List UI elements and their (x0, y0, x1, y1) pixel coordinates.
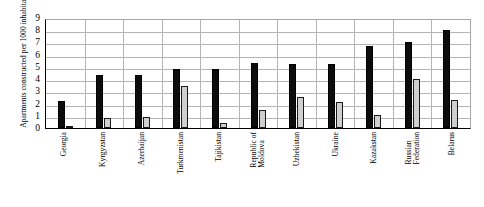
x-tick-label-line: Uzbekistan (293, 132, 301, 166)
bar (173, 69, 180, 128)
x-tick-label: Republic ofMoldova (250, 132, 266, 168)
x-axis-tick-labels: GeorgiaKyrgyzstanAzerbaijanTurkmenistanT… (45, 130, 471, 207)
bar-group (200, 20, 239, 128)
x-tick-label: Georgia (60, 132, 68, 156)
x-label-cell: Ukraine (316, 130, 355, 207)
bar-group (162, 20, 201, 128)
bar-group (46, 20, 85, 128)
y-tick-label: 6 (24, 51, 40, 61)
x-tick-label-line: Kazakstan (370, 132, 378, 164)
bar (251, 63, 258, 128)
x-tick-label-line: Moldova (258, 132, 266, 168)
y-tick-label: 8 (24, 26, 40, 36)
x-tick-label: Tajikistan (215, 132, 223, 162)
x-tick-label: Ukraine (331, 132, 339, 156)
x-tick-label-line: Azerbaijan (138, 132, 146, 165)
x-tick-label: Kazakstan (370, 132, 378, 164)
y-tick-label: 0 (24, 124, 40, 134)
bar (212, 69, 219, 128)
x-tick-label: Azerbaijan (138, 132, 146, 165)
bar (66, 126, 73, 128)
x-tick-label: Turkmenistan (176, 132, 184, 174)
x-label-cell: Georgia (45, 130, 84, 207)
bar (143, 117, 150, 128)
bar-groups (46, 20, 470, 128)
x-label-cell: Turkmenistan (161, 130, 200, 207)
x-tick-label: RussianFederation (405, 132, 421, 164)
bar (297, 97, 304, 128)
x-label-cell: Republic ofMoldova (239, 130, 278, 207)
bar (443, 30, 450, 128)
plot-area (45, 19, 471, 129)
bar-group (85, 20, 124, 128)
x-tick-label-line: Ukraine (331, 132, 339, 156)
x-label-cell: Kazakstan (355, 130, 394, 207)
x-tick-label-line: Belarus (448, 132, 456, 155)
y-tick-label: 7 (24, 39, 40, 49)
x-label-cell: RussianFederation (394, 130, 433, 207)
x-label-cell: Belarus (432, 130, 471, 207)
x-label-cell: Tajikistan (200, 130, 239, 207)
bar-group (239, 20, 278, 128)
bar-group (393, 20, 432, 128)
y-tick-label: 4 (24, 75, 40, 85)
bar (96, 75, 103, 128)
bar-group (354, 20, 393, 128)
bar-group (123, 20, 162, 128)
y-tick-label: 5 (24, 63, 40, 73)
bar (451, 100, 458, 128)
x-tick-label: Kyrgyzstan (99, 132, 107, 167)
x-tick-label-line: Georgia (60, 132, 68, 156)
bar (104, 118, 111, 128)
bar (328, 64, 335, 128)
x-label-cell: Azerbaijan (122, 130, 161, 207)
y-axis-tick-labels: 9876543210 (24, 14, 40, 129)
x-tick-label-line: Kyrgyzstan (99, 132, 107, 167)
bar-group (431, 20, 470, 128)
x-label-cell: Kyrgyzstan (84, 130, 123, 207)
x-tick-label-line: Federation (413, 132, 421, 164)
bar (220, 123, 227, 128)
bar-group (277, 20, 316, 128)
bar (405, 42, 412, 128)
y-tick-label: 3 (24, 88, 40, 98)
bar (135, 75, 142, 128)
bar-chart: Apartments constructed per 1000 inhabita… (0, 0, 484, 207)
y-tick-label: 1 (24, 112, 40, 122)
x-tick-label: Uzbekistan (293, 132, 301, 166)
bar (366, 46, 373, 128)
bar (413, 79, 420, 128)
bar (289, 64, 296, 128)
bar (336, 102, 343, 128)
bar-group (316, 20, 355, 128)
x-tick-label-line: Turkmenistan (176, 132, 184, 174)
x-label-cell: Uzbekistan (277, 130, 316, 207)
bar (259, 110, 266, 128)
y-tick-label: 2 (24, 100, 40, 110)
x-tick-label: Belarus (448, 132, 456, 155)
bar (58, 101, 65, 128)
y-tick-label: 9 (24, 14, 40, 24)
bar (374, 115, 381, 128)
bar (181, 86, 188, 128)
x-tick-label-line: Tajikistan (215, 132, 223, 162)
